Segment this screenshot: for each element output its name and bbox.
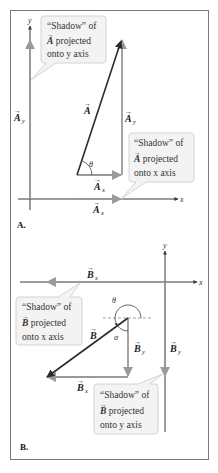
panel-label-b: B. — [20, 442, 28, 452]
panel-label-a: A. — [17, 220, 26, 230]
svg-text:→: → — [170, 338, 177, 346]
svg-text:“Shadow” of: “Shadow” of — [22, 302, 72, 312]
svg-text:onto y axis: onto y axis — [47, 49, 89, 59]
svg-text:→: → — [90, 325, 97, 333]
theta-label-a: θ — [89, 160, 93, 169]
y-axis-label-a: y — [27, 16, 32, 25]
svg-text:onto x axis: onto x axis — [134, 168, 176, 178]
x-axis-label-a: x — [179, 195, 184, 204]
svg-text:onto y axis: onto y axis — [100, 420, 142, 430]
label-vector-b: B → — [89, 325, 97, 341]
svg-text:y: y — [132, 118, 136, 125]
svg-text:→: → — [134, 338, 141, 346]
y-axis-label-b: y — [162, 241, 167, 250]
svg-text:→: → — [94, 176, 101, 184]
svg-text:x: x — [84, 387, 88, 394]
svg-text:→: → — [84, 100, 91, 108]
svg-text:→: → — [125, 108, 132, 116]
svg-text:“Shadow” of: “Shadow” of — [100, 390, 150, 400]
svg-text:→: → — [22, 313, 29, 320]
label-vector-a: A → — [83, 100, 91, 116]
svg-text:→: → — [93, 199, 100, 207]
svg-text:y: y — [21, 117, 25, 124]
x-axis-label-b: x — [198, 278, 203, 287]
svg-text:→: → — [77, 377, 84, 385]
svg-text:→: → — [134, 149, 141, 156]
svg-text:y: y — [177, 348, 181, 355]
svg-text:x: x — [100, 209, 104, 216]
svg-text:→: → — [87, 264, 94, 272]
vector-components-diagram: y x θ A → A y → A x → A y → — [0, 0, 218, 473]
svg-text:→: → — [47, 31, 54, 38]
svg-text:“Shadow” of: “Shadow” of — [47, 21, 97, 31]
svg-text:→: → — [100, 401, 107, 408]
svg-text:onto x axis: onto x axis — [22, 332, 64, 342]
svg-text:x: x — [101, 186, 105, 193]
svg-text:“Shadow” of: “Shadow” of — [134, 138, 184, 148]
svg-text:→: → — [14, 107, 21, 115]
svg-text:x: x — [94, 274, 98, 281]
svg-text:y: y — [141, 348, 145, 355]
theta-label-b: θ — [112, 296, 116, 305]
